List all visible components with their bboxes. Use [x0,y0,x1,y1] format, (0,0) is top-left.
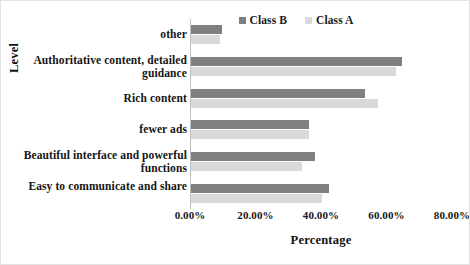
bar-class-a [191,194,322,203]
x-tick-label: 80.00% [434,209,470,221]
bar-class-a [191,162,302,171]
y-axis-line [190,19,191,209]
bar-class-a [191,130,309,139]
bar-class-b [191,89,365,98]
bar-class-b [191,184,329,193]
x-axis-ticks: 0.00%20.00%40.00%60.00%80.00% [190,209,452,225]
category-label: Easy to communicate and share [15,180,187,193]
category-label: Beautiful interface and powerful functio… [15,149,187,175]
category-labels: otherAuthoritative content, detailed gui… [15,19,187,209]
bar-class-b [191,57,402,66]
bar-class-a [191,67,396,76]
bar-class-a [191,35,220,44]
bar-class-b [191,25,222,34]
bar-class-b [191,152,315,161]
bar-class-a [191,99,378,108]
category-label: other [15,28,187,41]
x-tick-label: 20.00% [237,209,273,221]
category-label: Authoritative content, detailed guidance [15,54,187,80]
bar-class-b [191,120,309,129]
x-tick-label: 40.00% [303,209,339,221]
category-label: Rich content [15,92,187,105]
bar-chart-figure: Class B Class A Level otherAuthoritative… [0,0,470,265]
x-tick-label: 60.00% [368,209,404,221]
bars-container [190,19,452,209]
x-axis-title: Percentage [190,233,452,248]
x-tick-label: 0.00% [175,209,206,221]
category-label: fewer ads [15,123,187,136]
plot-area: otherAuthoritative content, detailed gui… [1,19,470,209]
